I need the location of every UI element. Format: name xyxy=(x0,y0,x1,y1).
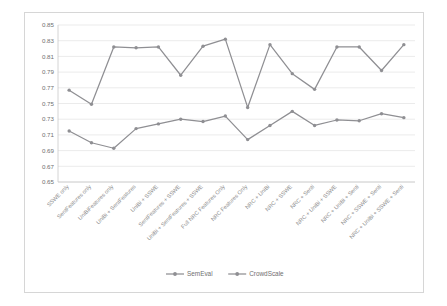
y-axis-tick-label: 0.81 xyxy=(42,53,55,60)
x-axis-tick-label: NRC + SSWE + Senti xyxy=(340,183,382,225)
y-axis-tick-label: 0.79 xyxy=(42,68,55,75)
data-point xyxy=(201,120,204,123)
data-point xyxy=(380,112,383,115)
data-point xyxy=(313,88,316,91)
y-axis-tick-label: 0.77 xyxy=(42,84,55,91)
data-point xyxy=(268,43,271,46)
y-axis-tick-label: 0.85 xyxy=(42,21,55,28)
data-point xyxy=(358,45,361,48)
data-point xyxy=(90,141,93,144)
data-point xyxy=(402,43,405,46)
data-point xyxy=(224,114,227,117)
x-axis-tick-label: NRC + UniBi + SSWE xyxy=(295,183,338,226)
data-point xyxy=(380,69,383,72)
data-point xyxy=(134,127,137,130)
data-point xyxy=(179,74,182,77)
data-point xyxy=(67,129,70,132)
data-point xyxy=(246,106,249,109)
data-point xyxy=(291,110,294,113)
legend-item-crowdscale[interactable]: CrowdScale xyxy=(228,270,284,277)
line-chart: 0.850.830.810.790.770.750.730.710.690.67… xyxy=(25,13,423,292)
x-axis-tick-label: UniBi + SentFeatures xyxy=(95,183,137,225)
data-point xyxy=(134,46,137,49)
data-point xyxy=(179,118,182,121)
y-axis-tick-label: 0.67 xyxy=(42,163,55,170)
data-point xyxy=(335,118,338,121)
y-axis-tick-label: 0.69 xyxy=(42,147,55,154)
data-point xyxy=(157,122,160,125)
legend-marker xyxy=(235,272,239,276)
y-axis-tick-label: 0.73 xyxy=(42,115,55,122)
data-point xyxy=(201,44,204,47)
legend-marker xyxy=(173,272,177,276)
data-point xyxy=(112,45,115,48)
legend-item-semeval[interactable]: SemEval xyxy=(166,270,213,277)
y-axis-tick-label: 0.83 xyxy=(42,37,55,44)
data-point xyxy=(402,116,405,119)
data-point xyxy=(112,147,115,150)
x-axis-tick-label: NRC + UniBi + Senti xyxy=(320,183,360,223)
y-axis-tick-label: 0.71 xyxy=(42,131,55,138)
data-point xyxy=(358,119,361,122)
chart-plot-area: 0.850.830.810.790.770.750.730.710.690.67… xyxy=(25,13,423,292)
data-point xyxy=(335,45,338,48)
data-point xyxy=(268,124,271,127)
x-axis-tick-label: SentFeatures + SSWE xyxy=(137,183,181,227)
legend-label: CrowdScale xyxy=(249,270,284,277)
data-point xyxy=(67,88,70,91)
data-point xyxy=(90,103,93,106)
data-point xyxy=(157,45,160,48)
data-point xyxy=(313,124,316,127)
chart-card: 0.850.830.810.790.770.750.730.710.690.67… xyxy=(24,12,424,293)
data-point xyxy=(246,138,249,141)
data-point xyxy=(291,72,294,75)
x-axis-tick-label: Full NRC Features Only xyxy=(180,183,226,229)
y-axis-tick-label: 0.65 xyxy=(42,178,55,185)
data-point xyxy=(224,37,227,40)
legend-label: SemEval xyxy=(187,270,213,277)
y-axis-tick-label: 0.75 xyxy=(42,100,55,107)
